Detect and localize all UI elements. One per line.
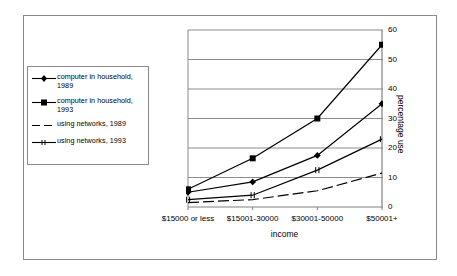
chart-plot-area bbox=[186, 27, 383, 210]
y-axis-tick-label: 10 bbox=[388, 173, 397, 182]
chart-plot-svg bbox=[186, 27, 383, 210]
dashed-line-key-icon bbox=[31, 120, 57, 131]
tick-line-key-icon bbox=[31, 137, 57, 148]
diamond-line-key-icon bbox=[31, 73, 57, 84]
y-axis-tick-label: 50 bbox=[388, 55, 397, 64]
square-line-key-icon bbox=[31, 97, 57, 108]
data-point-marker bbox=[314, 116, 320, 122]
data-point-marker bbox=[379, 42, 383, 48]
legend-item-networks-1989: using networks, 1989 bbox=[31, 119, 145, 131]
x-axis-tick-label: $50001+ bbox=[342, 214, 422, 223]
legend-item-computer-1989: computer in household, 1989 bbox=[31, 72, 145, 91]
series-line-1 bbox=[188, 45, 382, 190]
legend-item-computer-1993: computer in household, 1993 bbox=[31, 96, 145, 115]
data-point-marker bbox=[186, 186, 191, 192]
y-axis-tick-label: 40 bbox=[388, 84, 397, 93]
data-point-marker bbox=[249, 179, 256, 186]
chart-figure: computer in household, 1989 computer in … bbox=[0, 0, 457, 276]
legend-item-label: using networks, 1989 bbox=[57, 119, 126, 128]
legend-item-label: computer in household, 1989 bbox=[57, 72, 133, 91]
y-axis-tick-label: 60 bbox=[388, 25, 397, 34]
y-axis-title: percentage use bbox=[396, 95, 406, 154]
chart-legend: computer in household, 1989 computer in … bbox=[27, 66, 149, 165]
legend-item-label: computer in household, 1993 bbox=[57, 96, 133, 115]
legend-item-networks-1993: using networks, 1993 bbox=[31, 136, 145, 148]
y-axis-tick-label: 0 bbox=[388, 202, 392, 211]
legend-item-label: using networks, 1993 bbox=[57, 136, 126, 145]
data-point-marker bbox=[250, 155, 256, 161]
x-axis-title: income bbox=[186, 229, 383, 239]
